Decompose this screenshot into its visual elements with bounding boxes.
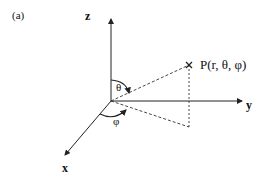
point-p-marker <box>186 62 192 68</box>
diagram-canvas <box>0 0 269 180</box>
theta-label: θ <box>116 82 121 93</box>
point-label: P(r, θ, φ) <box>200 58 246 71</box>
phi-label: φ <box>113 116 119 127</box>
projection-line <box>111 101 189 127</box>
spherical-coordinates-diagram: (a) z y x P(r, θ, φ) θ φ <box>0 0 269 180</box>
z-axis-label: z <box>85 10 90 22</box>
y-axis-label: y <box>246 99 252 111</box>
panel-label: (a) <box>12 10 24 21</box>
x-axis-label: x <box>62 162 68 174</box>
x-axis <box>65 101 111 155</box>
